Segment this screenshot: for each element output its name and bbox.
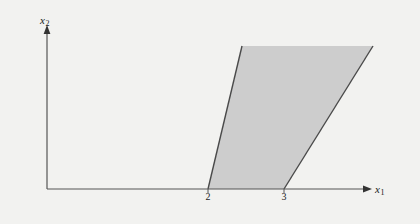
x2-axis-label: x2	[40, 14, 49, 26]
x-tick-label-2: 2	[201, 191, 215, 202]
right-arrowhead-icon	[363, 186, 372, 193]
x1-axis-label-subscript: 1	[380, 188, 385, 197]
figure-canvas: x2 x1 2 3	[0, 0, 420, 224]
x-tick-label-3: 3	[277, 191, 291, 202]
x2-axis-label-subscript: 2	[45, 19, 50, 28]
feasible-region	[208, 46, 373, 189]
x1-axis-label: x1	[375, 183, 384, 195]
